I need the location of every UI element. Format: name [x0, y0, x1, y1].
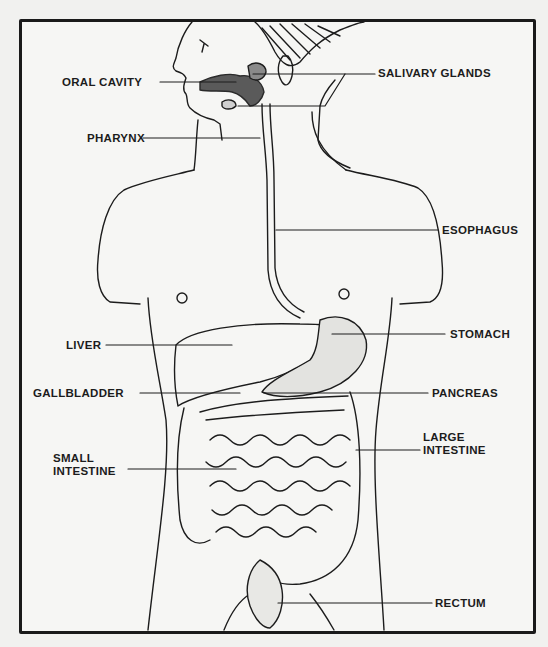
label-pancreas: PANCREAS [432, 387, 498, 400]
neck-right [312, 112, 346, 170]
label-stomach: STOMACH [450, 328, 510, 341]
label-rectum: RECTUM [435, 597, 486, 610]
intestines [177, 392, 360, 628]
label-oral-cavity: ORAL CAVITY [62, 76, 142, 89]
label-gallbladder: GALLBLADDER [33, 387, 124, 400]
digestive-system-illustration [0, 0, 548, 647]
rectum-shape [247, 560, 282, 628]
label-pharynx: PHARYNX [87, 132, 145, 145]
label-liver: LIVER [66, 339, 101, 352]
label-esophagus: ESOPHAGUS [442, 224, 518, 237]
stomach-shape [262, 317, 367, 397]
label-small-intestine: SMALL INTESTINE [53, 452, 116, 478]
esophagus-tube [262, 104, 304, 318]
leader-lines [106, 74, 445, 603]
oral-cavity-shape [200, 63, 266, 109]
label-large-intestine: LARGE INTESTINE [423, 431, 486, 457]
head-outline [173, 22, 364, 168]
label-salivary-glands: SALIVARY GLANDS [378, 67, 491, 80]
neck-left [194, 120, 198, 170]
